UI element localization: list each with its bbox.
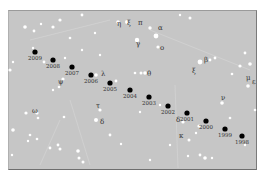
star <box>134 72 137 75</box>
star <box>115 80 118 83</box>
star <box>140 72 143 75</box>
star <box>94 32 96 34</box>
star <box>82 161 85 164</box>
star <box>58 18 61 21</box>
star <box>214 57 217 60</box>
position-marker <box>239 133 244 138</box>
star <box>63 116 66 119</box>
star-label: γ <box>136 40 140 48</box>
position-marker <box>88 72 93 77</box>
star <box>188 139 191 142</box>
star <box>29 134 32 137</box>
star <box>33 30 36 33</box>
star <box>94 73 98 77</box>
year-label: 2001 <box>180 116 194 122</box>
star <box>36 138 39 141</box>
star <box>159 104 161 106</box>
star-label: μ <box>246 74 251 82</box>
star <box>246 84 250 88</box>
star <box>254 109 257 112</box>
star-label: λ <box>101 70 106 78</box>
star-field: ηξπαγoλψθβξμενωτδδκ200920082007200620052… <box>0 0 266 177</box>
star <box>37 117 40 120</box>
position-marker <box>165 103 170 108</box>
year-label: 1998 <box>235 139 249 145</box>
star <box>40 23 42 25</box>
star-chart: ηξπαγoλψθβξμενωτδδκ200920082007200620052… <box>0 0 266 177</box>
position-marker <box>146 94 151 99</box>
star-label: ν <box>221 94 225 102</box>
star <box>179 14 181 16</box>
star <box>69 37 72 40</box>
star-label: α <box>158 24 163 32</box>
star <box>12 61 14 63</box>
star <box>78 157 81 160</box>
star-label: ξ <box>192 67 196 75</box>
star <box>32 47 34 49</box>
star <box>43 61 46 64</box>
star <box>209 59 212 62</box>
star <box>189 17 192 20</box>
star <box>58 86 61 89</box>
star <box>231 73 234 76</box>
star-label: κ <box>179 132 184 140</box>
year-label: 2007 <box>65 70 79 76</box>
star-label: ε <box>252 78 256 86</box>
star-label: π <box>138 19 143 27</box>
star-label: τ <box>96 102 100 110</box>
constellation-line <box>70 100 90 165</box>
star <box>203 156 207 160</box>
star <box>81 49 83 51</box>
star <box>169 144 171 146</box>
star <box>248 62 252 66</box>
star-label: η <box>117 20 121 28</box>
year-label: 2002 <box>161 109 175 115</box>
star <box>211 157 213 159</box>
star <box>154 34 159 39</box>
year-label: 2009 <box>28 55 42 61</box>
constellation-line <box>40 120 60 165</box>
position-marker <box>184 110 189 115</box>
star-label: ω <box>32 107 38 115</box>
year-label: 2004 <box>123 93 137 99</box>
star <box>195 132 197 134</box>
star <box>76 149 80 153</box>
star <box>23 25 27 29</box>
star <box>120 143 122 145</box>
star-label: θ <box>147 70 151 78</box>
star <box>198 60 203 65</box>
year-label: 2000 <box>199 124 213 130</box>
star-label: ψ <box>58 78 64 86</box>
star <box>81 14 84 17</box>
position-marker <box>69 64 74 69</box>
star <box>238 64 241 67</box>
year-label: 2008 <box>46 63 60 69</box>
star <box>244 52 247 55</box>
star <box>199 154 202 157</box>
star <box>149 159 151 161</box>
star <box>94 118 98 122</box>
star <box>139 111 141 113</box>
position-marker <box>203 118 208 123</box>
star <box>109 134 112 137</box>
star <box>99 54 101 56</box>
year-label: 2003 <box>142 100 156 106</box>
star <box>49 147 52 150</box>
star <box>187 155 189 157</box>
star-label: o <box>160 44 164 52</box>
star <box>11 154 13 156</box>
position-marker <box>32 49 37 54</box>
star <box>51 25 54 28</box>
star-label: ξ <box>127 19 131 27</box>
year-label: 2006 <box>84 78 98 84</box>
star <box>64 57 66 59</box>
star <box>24 111 27 114</box>
position-marker <box>107 80 112 85</box>
star <box>52 89 54 91</box>
star <box>27 140 29 142</box>
star <box>148 26 151 29</box>
star <box>8 68 11 71</box>
year-label: 1999 <box>218 132 232 138</box>
star-label: δ <box>100 118 104 126</box>
star <box>59 148 62 151</box>
